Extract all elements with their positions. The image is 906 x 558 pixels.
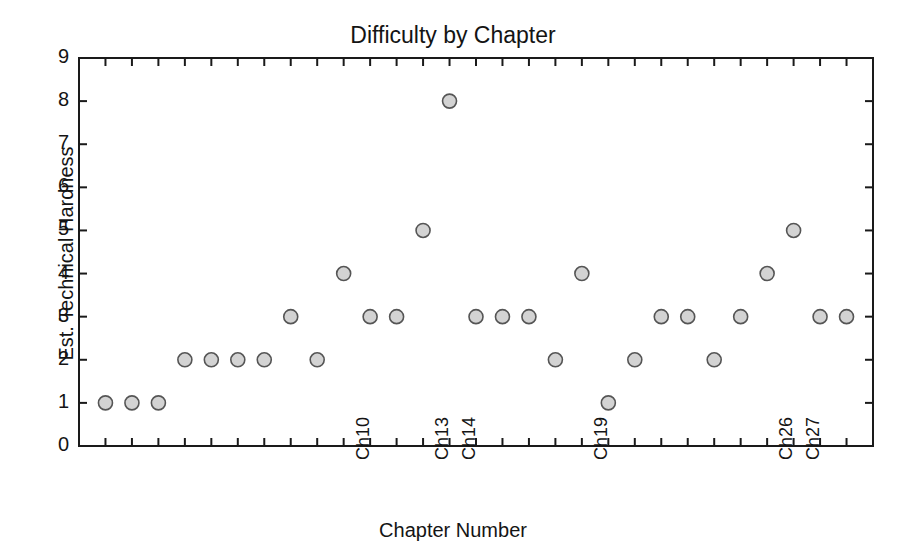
data-point <box>707 353 721 367</box>
y-tick-label: 1 <box>43 390 69 413</box>
data-point <box>495 310 509 324</box>
data-point <box>840 310 854 324</box>
data-point <box>125 396 139 410</box>
chart-figure: Difficulty by Chapter Est. Technical Har… <box>0 0 906 558</box>
axes-frame <box>79 58 873 446</box>
data-point <box>654 310 668 324</box>
x-tick-marks <box>105 58 846 446</box>
data-point <box>601 396 615 410</box>
data-point <box>231 353 245 367</box>
data-point <box>813 310 827 324</box>
y-tick-label: 6 <box>43 174 69 197</box>
data-point <box>787 223 801 237</box>
data-point <box>681 310 695 324</box>
x-tick-label: Ch19 <box>591 417 612 460</box>
data-point <box>98 396 112 410</box>
data-point <box>443 94 457 108</box>
data-point <box>363 310 377 324</box>
x-tick-label: Ch27 <box>803 417 824 460</box>
data-point <box>284 310 298 324</box>
data-point <box>416 223 430 237</box>
y-tick-label: 8 <box>43 88 69 111</box>
x-tick-label: Ch14 <box>459 417 480 460</box>
y-tick-label: 3 <box>43 304 69 327</box>
y-tick-label: 7 <box>43 131 69 154</box>
data-point <box>628 353 642 367</box>
y-tick-label: 9 <box>43 45 69 68</box>
data-point <box>575 267 589 281</box>
data-point <box>469 310 483 324</box>
data-point <box>178 353 192 367</box>
data-point <box>310 353 324 367</box>
y-tick-label: 0 <box>43 433 69 456</box>
x-tick-label: Ch10 <box>353 417 374 460</box>
data-point <box>760 267 774 281</box>
data-point <box>522 310 536 324</box>
data-point <box>734 310 748 324</box>
data-point <box>151 396 165 410</box>
y-tick-marks <box>79 101 873 403</box>
plot-border <box>79 58 873 446</box>
data-point <box>548 353 562 367</box>
data-point <box>257 353 271 367</box>
y-tick-label: 4 <box>43 261 69 284</box>
y-tick-label: 5 <box>43 217 69 240</box>
data-point <box>390 310 404 324</box>
data-point <box>204 353 218 367</box>
y-tick-label: 2 <box>43 347 69 370</box>
x-tick-label: Ch13 <box>432 417 453 460</box>
x-tick-label: Ch26 <box>776 417 797 460</box>
data-point <box>337 267 351 281</box>
data-point-group <box>98 94 853 410</box>
scatter-plot-area <box>0 0 906 558</box>
